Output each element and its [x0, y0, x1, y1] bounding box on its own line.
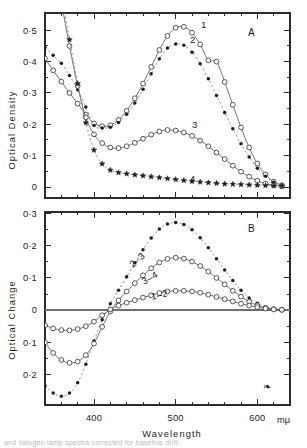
data-point — [100, 313, 105, 318]
data-point — [116, 303, 121, 308]
data-point — [222, 297, 227, 302]
data-point — [206, 269, 211, 274]
data-point — [75, 327, 80, 332]
data-point — [92, 319, 97, 324]
data-point — [124, 289, 129, 294]
data-point — [140, 173, 146, 178]
data-point — [198, 290, 203, 295]
data-point — [256, 166, 260, 170]
data-point — [116, 146, 121, 151]
data-point — [206, 144, 211, 149]
plot-frame-a — [45, 13, 290, 198]
data-point — [125, 113, 128, 117]
data-point — [99, 161, 105, 166]
data-point — [117, 288, 121, 292]
data-point — [43, 340, 48, 345]
curve-label-b-1-2: 1–2 — [150, 287, 169, 302]
x-axis-unit: mμ — [277, 415, 290, 425]
data-point — [239, 125, 244, 130]
data-point — [92, 341, 97, 346]
data-point — [59, 358, 64, 363]
data-point — [59, 79, 64, 84]
data-point — [133, 101, 137, 105]
curve-line-a-2 — [45, 0, 282, 186]
data-point — [239, 169, 244, 174]
data-point — [100, 126, 104, 130]
data-point — [230, 102, 235, 107]
data-point — [124, 171, 130, 176]
data-point — [116, 298, 121, 303]
data-point — [83, 324, 88, 329]
data-point — [231, 127, 235, 131]
data-point — [214, 295, 219, 300]
data-point — [141, 136, 146, 141]
panel-b: 0·30·20·100·10·24005006002–33–41–2 — [23, 209, 290, 423]
data-point — [108, 167, 114, 172]
data-point — [148, 174, 154, 179]
data-point — [108, 307, 113, 312]
data-point — [247, 145, 252, 150]
x-tick-label-0: 400 — [86, 413, 102, 423]
y-tick-label-b-1: 0·2 — [23, 241, 37, 251]
data-point — [214, 180, 220, 185]
data-point — [198, 138, 203, 143]
data-point — [83, 115, 88, 120]
figure-root: 0·50·40·30·20·101234 0·30·20·100·10·2400… — [0, 0, 307, 448]
data-point — [207, 77, 211, 81]
data-point — [166, 46, 170, 50]
data-point — [206, 292, 211, 297]
data-point — [51, 54, 55, 58]
data-point — [173, 177, 179, 182]
y-tick-label-b-0: 0·3 — [23, 209, 37, 219]
curve-label-b-3-4: 3–4 — [140, 269, 160, 287]
spectra-figure: 0·50·40·30·20·101234 0·30·20·100·10·2400… — [0, 0, 307, 448]
data-point — [43, 46, 47, 50]
data-point — [83, 120, 89, 125]
data-point — [173, 25, 178, 30]
data-point — [207, 246, 211, 250]
data-point — [174, 42, 178, 46]
data-point — [51, 68, 56, 73]
data-point — [59, 328, 64, 333]
panel-a-label: A — [248, 27, 255, 38]
data-point — [108, 145, 113, 150]
data-point — [149, 236, 153, 240]
data-point — [247, 303, 252, 308]
data-point — [132, 298, 137, 303]
data-point — [181, 178, 187, 183]
data-point — [222, 181, 228, 186]
data-point — [190, 134, 195, 139]
curve-label-b-2-3: 2–3 — [127, 250, 147, 269]
data-point — [222, 80, 227, 85]
data-point — [206, 180, 212, 185]
data-point — [75, 101, 80, 106]
y-tick-label-b-4: 0·1 — [23, 338, 37, 348]
data-point — [43, 384, 47, 388]
data-point — [116, 170, 122, 175]
y-tick-label-b-3: 0 — [32, 305, 37, 315]
data-point — [43, 323, 48, 328]
data-point — [173, 255, 178, 260]
data-point — [67, 44, 72, 49]
data-point — [100, 318, 104, 322]
data-point — [230, 163, 235, 168]
data-point — [230, 181, 236, 186]
data-point — [75, 359, 80, 364]
figure-caption-fragment: and halogen lamp spectra corrected for b… — [0, 438, 307, 448]
data-point — [109, 302, 113, 306]
data-point — [181, 256, 186, 261]
data-point — [117, 121, 121, 125]
data-point — [165, 257, 170, 262]
data-point — [223, 111, 227, 115]
data-point — [215, 94, 219, 98]
panel-b-label: B — [248, 223, 255, 234]
data-point — [271, 307, 276, 312]
data-point — [141, 81, 146, 86]
y-tick-label-a-4: 0·1 — [23, 151, 37, 161]
data-point — [255, 182, 261, 187]
data-point — [109, 125, 113, 129]
data-point — [239, 294, 244, 299]
data-point — [197, 179, 203, 184]
y-tick-label-a-0: 0·5 — [23, 26, 37, 36]
data-point — [182, 44, 186, 48]
